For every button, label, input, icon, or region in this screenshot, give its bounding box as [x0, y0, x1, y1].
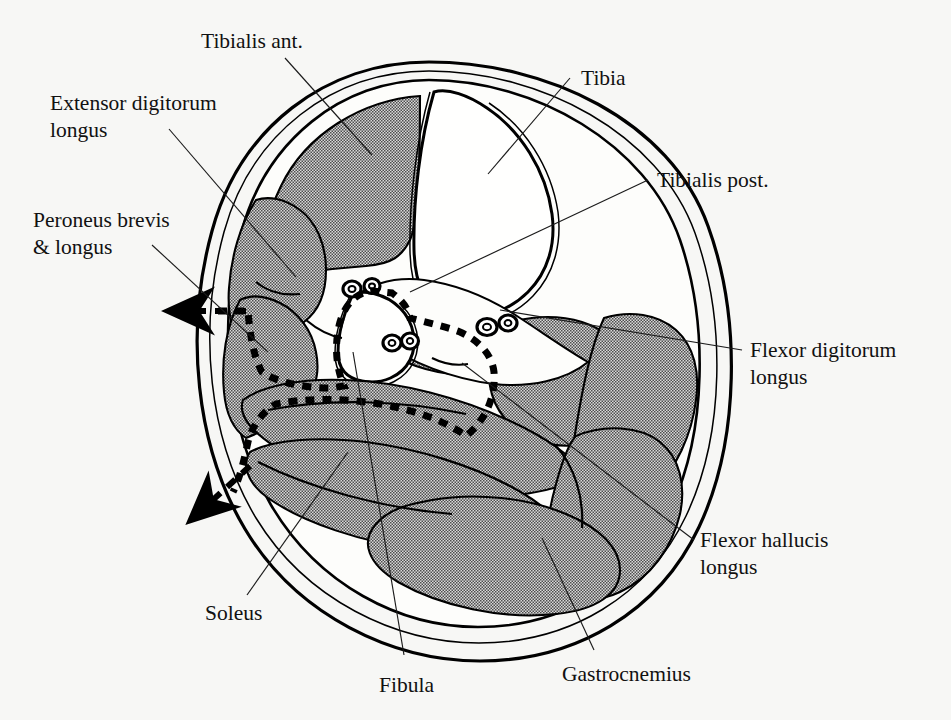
label-flexor-digitorum-longus-line1: Flexor digitorum: [750, 338, 897, 362]
label-tibialis-post: Tibialis post.: [657, 168, 769, 192]
label-peroneus-line2: & longus: [33, 235, 112, 259]
label-peroneus-line1: Peroneus brevis: [33, 208, 170, 232]
label-tibia: Tibia: [581, 66, 626, 90]
label-fibula: Fibula: [379, 673, 434, 697]
label-extensor-digitorum-longus-line1: Extensor digitorum: [50, 91, 217, 115]
label-flexor-hallucis-longus-line2: longus: [700, 555, 757, 579]
label-gastrocnemius: Gastrocnemius: [562, 662, 691, 686]
label-flexor-digitorum-longus-line2: longus: [750, 365, 807, 389]
label-tibialis-ant: Tibialis ant.: [201, 29, 303, 53]
label-flexor-hallucis-longus-line1: Flexor hallucis: [700, 528, 828, 552]
label-extensor-digitorum-longus-line2: longus: [50, 118, 107, 142]
figure-canvas: Tibialis ant. Extensor digitorum longus …: [0, 0, 951, 720]
label-soleus: Soleus: [205, 601, 262, 625]
